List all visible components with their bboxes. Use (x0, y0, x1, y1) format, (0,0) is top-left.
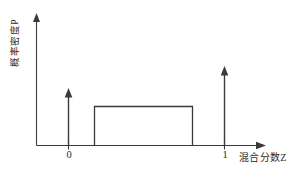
x-tick-label-zero: 0 (63, 150, 75, 161)
plateau-outline (95, 107, 193, 146)
delta-spike-one-arrowhead (221, 66, 229, 76)
y-axis-arrowhead (33, 13, 40, 22)
chart-canvas (0, 0, 307, 177)
delta-spike-at-one (221, 66, 229, 146)
delta-spike-at-zero (65, 88, 73, 146)
y-axis-label: 概率密度P (11, 13, 21, 73)
delta-spike-zero-arrowhead (65, 88, 73, 98)
y-axis (33, 13, 40, 146)
x-axis-arrowhead (256, 142, 266, 149)
x-tick-label-one: 1 (219, 150, 231, 161)
x-axis-label: 混合分数Z (239, 153, 287, 163)
uniform-plateau-rectangle (95, 107, 193, 146)
pdf-beta-function-figure: 概率密度P 混合分数Z 0 1 (0, 0, 307, 177)
